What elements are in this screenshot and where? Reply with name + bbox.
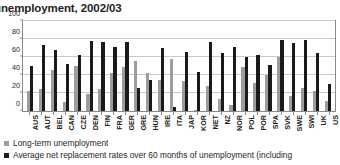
bar-group (251, 21, 263, 111)
x-axis-label-cell: CAN (59, 115, 71, 139)
bar (125, 42, 128, 111)
x-axis-label-cell: UK (311, 115, 323, 139)
y-axis-tick-label: 20 (12, 82, 20, 89)
bar-series-container (23, 21, 335, 111)
y-axis-tick-label: 60 (12, 46, 20, 53)
bar (185, 52, 188, 111)
legend-label: Long-term unemployment (13, 139, 108, 149)
x-axis-label-cell: ITA (167, 115, 179, 139)
bar (245, 57, 248, 111)
bar (292, 43, 295, 111)
x-axis-label-cell: JAP (179, 115, 191, 139)
bar (113, 47, 116, 111)
bar (316, 53, 319, 112)
bar-group (239, 21, 251, 111)
x-axis-label-cell: DEN (83, 115, 95, 139)
bar (221, 53, 224, 111)
bar (170, 59, 173, 111)
bar-group (107, 21, 119, 111)
x-axis-tick-label: US (332, 115, 339, 125)
bar-group (48, 21, 60, 111)
bar (197, 72, 200, 111)
bar-group (191, 21, 203, 111)
x-axis-label-cell: NET (203, 115, 215, 139)
bar-group (84, 21, 96, 111)
legend-item: Average net replacement rates over 60 mo… (4, 151, 340, 161)
x-axis-label-cell: KOR (191, 115, 203, 139)
bar (30, 66, 33, 111)
x-axis-label-cell: AUS (23, 115, 35, 139)
y-axis-tick-label: 40 (12, 64, 20, 71)
x-axis-label-cell: FRA (107, 115, 119, 139)
bar (78, 55, 81, 111)
bar-group (143, 21, 155, 111)
chart-plot-wrapper: 020406080100 AUSAUTBELCANCZEDENFINFRAGER… (0, 18, 340, 136)
bar-group (215, 21, 227, 111)
y-axis-tick-label: 0 (16, 100, 20, 107)
x-axis-labels: AUSAUTBELCANCZEDENFINFRAGERGREHUNIREITAJ… (22, 115, 336, 139)
legend-label: Average net replacement rates over 60 mo… (13, 151, 292, 161)
bar-group (167, 21, 179, 111)
bar (173, 107, 176, 112)
bar-group (131, 21, 143, 111)
bar-group (36, 21, 48, 111)
legend-swatch-icon (4, 153, 9, 158)
bar-group (179, 21, 191, 111)
bar (149, 80, 152, 112)
legend-item: Long-term unemployment (4, 139, 340, 149)
x-axis-label-cell: FIN (95, 115, 107, 139)
legend-swatch-icon (4, 141, 9, 146)
x-axis-label-cell: POR (251, 115, 263, 139)
bar-group (310, 21, 322, 111)
bar-group (286, 21, 298, 111)
bar-group (274, 21, 286, 111)
x-axis-label-cell: IRE (155, 115, 167, 139)
x-axis-label-cell: HUN (143, 115, 155, 139)
bar (42, 45, 45, 111)
x-axis-label-cell: US (323, 115, 335, 139)
bar-group (227, 21, 239, 111)
bar-group (203, 21, 215, 111)
x-axis-label-cell: GRE (131, 115, 143, 139)
bar-group (155, 21, 167, 111)
x-axis-label-cell: SWE (287, 115, 299, 139)
bar (90, 41, 93, 111)
y-axis-tick-label: 100 (8, 10, 20, 17)
bar (137, 88, 140, 111)
bar-group (72, 21, 84, 111)
bar (280, 40, 283, 111)
bar (209, 42, 212, 111)
chart-plot-area: 020406080100 (22, 20, 336, 112)
bar (304, 40, 307, 111)
bar (233, 47, 236, 111)
x-axis-label-cell: NZ (215, 115, 227, 139)
bar-group (262, 21, 274, 111)
bar-group (24, 21, 36, 111)
bar-group (96, 21, 108, 111)
x-axis-label-cell: SWI (299, 115, 311, 139)
bar (101, 42, 104, 111)
page-title: unemployment, 2002/03 (0, 0, 340, 16)
bar (54, 50, 57, 111)
bar (161, 48, 164, 111)
bar-group (119, 21, 131, 111)
x-axis-label-cell: NOR (227, 115, 239, 139)
chart-legend: Long-term unemploymentAverage net replac… (4, 139, 340, 162)
x-axis-label-cell: SVK (275, 115, 287, 139)
x-axis-label-cell: CZE (71, 115, 83, 139)
bar (256, 55, 259, 111)
x-axis-label-cell: GER (119, 115, 131, 139)
x-axis-label-cell: AUT (35, 115, 47, 139)
x-axis-label-cell: SPA (263, 115, 275, 139)
bar-group (60, 21, 72, 111)
bar (66, 64, 69, 111)
y-axis-tick-label: 80 (12, 28, 20, 35)
bar-group (322, 21, 334, 111)
x-axis-label-cell: BEL (47, 115, 59, 139)
bar (268, 65, 271, 111)
bar (328, 84, 331, 111)
bar-group (298, 21, 310, 111)
x-axis-label-cell: POL (239, 115, 251, 139)
